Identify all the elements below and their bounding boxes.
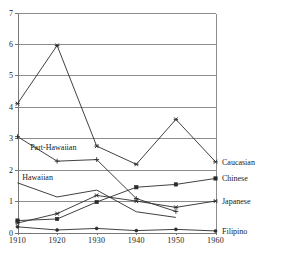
marker-chinese	[55, 217, 58, 220]
marker-filipino	[135, 229, 138, 232]
y-tick-label-6: 6	[9, 40, 13, 49]
x-tick-label-1920: 1920	[48, 236, 65, 245]
marker-chinese	[174, 183, 177, 186]
marker-filipino	[56, 228, 59, 231]
marker-filipino	[95, 227, 98, 230]
x-tick-label-1940: 1940	[128, 236, 145, 245]
y-tick-label-2: 2	[9, 166, 13, 175]
marker-filipino	[16, 225, 19, 228]
x-tick-label-1950: 1950	[167, 236, 184, 245]
marker-filipino	[214, 229, 217, 232]
annotation-hawaiian: Hawaiian	[22, 173, 53, 182]
x-tick-label-1930: 1930	[88, 236, 105, 245]
y-tick-label-7: 7	[9, 9, 13, 18]
series-label-japanese: Japanese	[222, 197, 251, 206]
y-tick-label-3: 3	[9, 134, 13, 143]
annotation-part-hawaiian: Part-Hawaiian	[30, 143, 76, 152]
line-chart-figure: 01234567 191019201930194019501960 Caucas…	[0, 0, 284, 253]
y-tick-label-4: 4	[9, 103, 13, 112]
x-tick-label-1960: 1960	[207, 236, 224, 245]
marker-chinese	[214, 177, 217, 180]
series-label-filipino: Filipino	[222, 227, 247, 236]
y-tick-label-5: 5	[9, 71, 13, 80]
marker-chinese	[135, 186, 138, 189]
marker-filipino	[174, 228, 177, 231]
chart-canvas: 01234567 191019201930194019501960 Caucas…	[0, 0, 284, 253]
chart-background	[0, 0, 284, 253]
x-tick-label-1910: 1910	[9, 236, 26, 245]
series-label-chinese: Chinese	[222, 174, 248, 183]
marker-chinese	[95, 200, 98, 203]
series-label-caucasian: Caucasian	[222, 158, 255, 167]
y-tick-label-1: 1	[9, 197, 13, 206]
